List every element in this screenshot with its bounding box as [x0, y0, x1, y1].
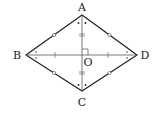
rhombus-diagram: A B C D O	[0, 0, 155, 118]
rhombus-ABCD	[26, 15, 137, 91]
side-mark-CD	[108, 71, 111, 74]
angle-dot-C-right	[85, 84, 87, 86]
vertex-label-C: C	[78, 96, 86, 109]
side-mark-BC	[52, 71, 55, 74]
side-mark-AD	[108, 33, 111, 36]
vertex-label-A: A	[77, 1, 87, 14]
right-angle-mark	[82, 49, 88, 55]
side-mark-AB	[52, 33, 55, 36]
angle-dot-A-right	[85, 22, 87, 24]
angle-dot-C-left	[78, 84, 80, 86]
center-label-O: O	[83, 56, 92, 69]
vertex-label-B: B	[13, 49, 21, 62]
angle-dot-A-left	[78, 22, 80, 24]
vertex-label-D: D	[141, 49, 150, 62]
